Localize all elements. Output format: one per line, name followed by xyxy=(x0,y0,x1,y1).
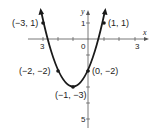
point-neg1-neg3 xyxy=(71,85,75,89)
label-point-neg3-1: (−3, 1) xyxy=(12,18,38,28)
y-axis-label: y xyxy=(80,7,85,16)
y-tick-label-1: 1 xyxy=(81,19,86,28)
x-tick-label-0: 0 xyxy=(81,42,86,51)
label-point-neg2-neg2: (−2, −2) xyxy=(19,66,51,76)
y-axis-arrow-icon xyxy=(86,10,90,15)
point-0-neg2 xyxy=(86,69,90,73)
label-point-0-neg2: (0, −2) xyxy=(92,66,118,76)
label-point-1-1: (1, 1) xyxy=(108,18,129,28)
label-point-neg1-neg3: (−1, −3) xyxy=(55,90,87,100)
x-axis-arrow-icon xyxy=(144,37,149,41)
curve-arrow-right-icon xyxy=(102,8,108,15)
curve-arrow-left-icon xyxy=(39,8,45,15)
x-tick-label-3: 3 xyxy=(135,42,140,51)
point-1-1 xyxy=(102,21,106,25)
data-points xyxy=(41,21,106,89)
y-tick-label-neg5: 5 xyxy=(81,115,86,124)
point-neg2-neg2 xyxy=(56,69,60,73)
parabola-chart: 3 0 3 1 5 x y (−3, 1) (−2, −2) (−1, −3) … xyxy=(0,0,157,134)
x-axis-label: x xyxy=(142,28,147,37)
x-tick-label-neg3: 3 xyxy=(40,42,45,51)
point-neg3-1 xyxy=(41,21,45,25)
